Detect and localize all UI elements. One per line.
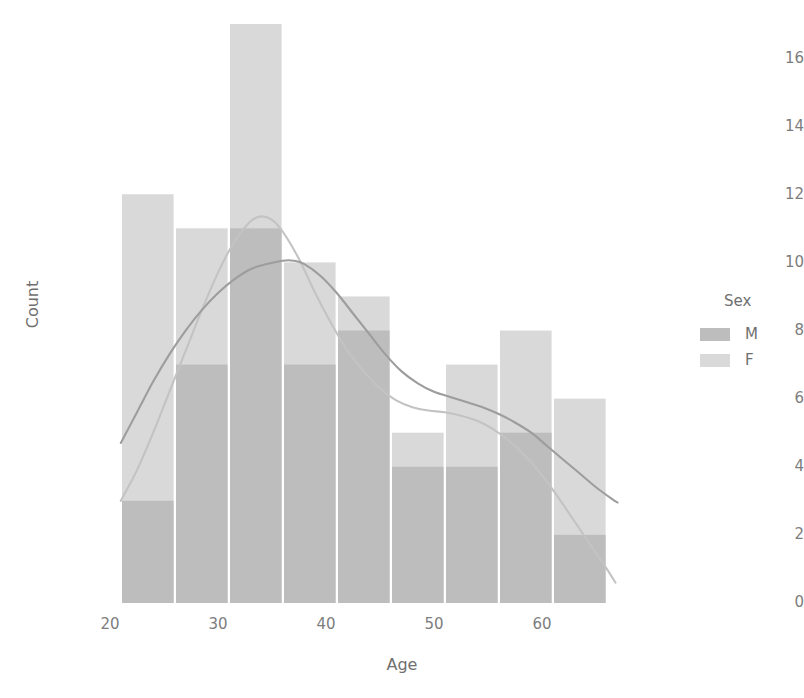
bar-m-1	[176, 365, 228, 603]
bar-m-7	[500, 433, 552, 603]
legend-swatch-m	[700, 328, 730, 341]
legend-title: Sex	[724, 292, 800, 310]
bar-m-0	[122, 501, 174, 603]
legend-label-m: M	[745, 327, 758, 342]
bar-m-3	[284, 365, 336, 603]
plot-area	[0, 0, 804, 698]
legend-item-m[interactable]: M	[700, 321, 800, 347]
bar-m-8	[554, 535, 606, 603]
legend-swatch-f	[700, 354, 730, 367]
legend-item-f[interactable]: F	[700, 347, 800, 373]
legend-label-f: F	[745, 353, 754, 368]
bar-m-2	[230, 228, 282, 603]
legend: Sex M F	[700, 292, 800, 373]
bar-m-5	[392, 467, 444, 603]
bar-m-6	[446, 467, 498, 603]
histogram-figure: 16 14 12 10 8 6 4 2 0 20 30 40 50 60 Cou…	[0, 0, 804, 698]
